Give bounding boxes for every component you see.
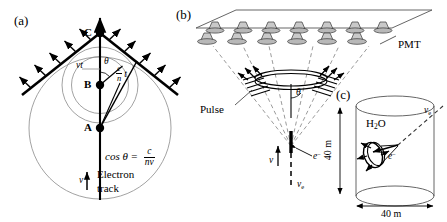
electron-track-label-line2: track (97, 183, 119, 194)
pmt-tube (228, 33, 247, 44)
water-o: O (378, 117, 386, 129)
pulse-label: Pulse (200, 104, 224, 115)
theta-label-b: θ (296, 88, 301, 98)
velocity-label-b: v (269, 156, 273, 166)
pmt-tube (348, 33, 367, 44)
light-ring-outer (255, 70, 327, 86)
pmt-tube (318, 33, 337, 44)
velocity-label-a: v (79, 176, 83, 186)
ct-den: n (116, 74, 122, 83)
panel-a-letter: (a) (14, 14, 28, 27)
water-h: H (366, 117, 374, 129)
ct-over-n-label: c n t (116, 64, 127, 82)
neutrino-label-c: νe (424, 106, 431, 116)
emission-arrows-left (20, 29, 92, 88)
point-c-label: C (84, 27, 92, 38)
electron-leader-line (296, 148, 312, 156)
electron-label-b: e− (313, 152, 321, 162)
pmt-tube (288, 33, 307, 44)
theta-arc-a (100, 72, 110, 77)
point-a-label: A (84, 122, 92, 133)
width-label: 40 m (381, 209, 401, 219)
equation-den: nv (144, 158, 155, 168)
point-b-label: B (84, 79, 91, 90)
equation-lhs: cos θ = (105, 150, 138, 162)
neutrino-track-c (398, 106, 443, 145)
cherenkov-equation: cos θ = c nv (105, 147, 155, 167)
panel-c-letter: (c) (336, 88, 350, 101)
electron-label-c: e− (388, 152, 396, 162)
theta-label-a: θ (104, 57, 109, 67)
water-label: H2O (366, 118, 386, 130)
ct-t: t (124, 69, 127, 79)
neutrino-sub-c: e (428, 109, 431, 116)
pulse-leader-line (235, 90, 252, 105)
cylinder-top (356, 96, 434, 116)
cylinder-bottom (356, 186, 434, 206)
pmt-leader-line (380, 36, 396, 44)
electron-charge-b: − (317, 151, 321, 158)
neutrino-sub-b: e (301, 183, 304, 190)
electron-charge-c: − (392, 151, 396, 158)
neutrino-label-b: νe (297, 180, 304, 190)
pmt-plane (196, 10, 432, 28)
point-b-dot (96, 81, 104, 89)
pmt-label: PMT (398, 39, 421, 50)
height-label: 40 m (323, 140, 333, 160)
point-c-dot (96, 29, 104, 37)
wavefront-packet-left (243, 74, 270, 96)
pmt-tube (258, 33, 277, 44)
panel-b-letter: (b) (176, 8, 191, 21)
wavefront-packet-right (312, 74, 339, 96)
pmt-tube (198, 33, 217, 44)
point-a-dot (96, 124, 104, 132)
electron-track-label-line1: Electron (97, 169, 134, 180)
vt-label: vt (76, 61, 83, 71)
pmt-row-front (198, 33, 367, 44)
